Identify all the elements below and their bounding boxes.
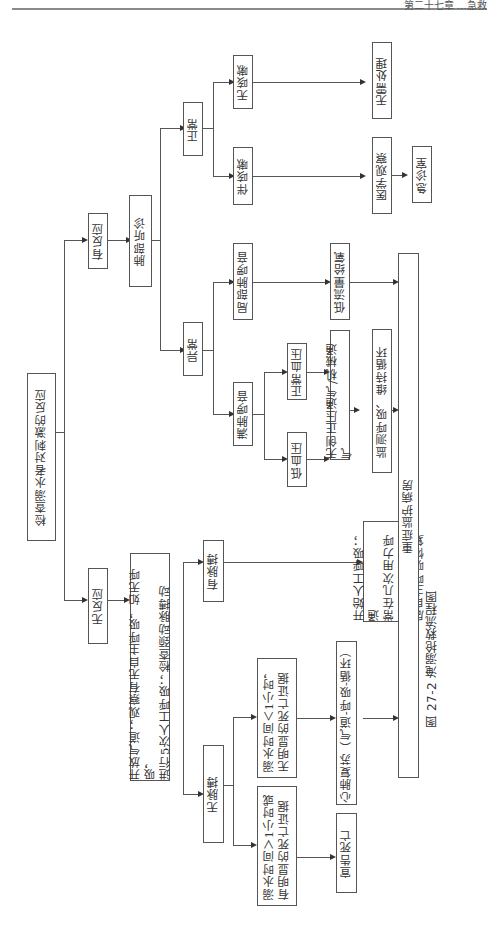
connector	[233, 845, 253, 846]
node-no-pulse: 无脉搏	[203, 745, 224, 843]
node-er: 急诊室	[412, 146, 432, 203]
connector	[56, 432, 64, 433]
node-no-treatment: 无需处理	[372, 42, 392, 119]
running-title: 第二十七章 …急救	[404, 0, 487, 12]
connector	[108, 240, 126, 241]
node-low-flow-o2: 低流量给氧	[330, 243, 350, 320]
node-abnormal: 异常	[183, 322, 203, 376]
node-declare-death: 宣告死亡	[336, 813, 357, 893]
node-no-cough: 无咳嗽	[233, 55, 253, 109]
connector	[64, 240, 65, 600]
connector	[348, 282, 393, 283]
connector	[223, 785, 233, 786]
connector	[223, 562, 357, 563]
connector	[363, 718, 393, 719]
node-medical-observation: 医学观察	[372, 137, 392, 214]
connector	[64, 600, 82, 601]
node-icu: 重症监护病房	[398, 253, 419, 778]
connector	[250, 82, 360, 83]
node-root: 检查溺水者对刺激的反应	[27, 373, 56, 541]
connector	[213, 176, 229, 177]
figure-caption: 图 27-2 淹溺抢救流程图	[425, 590, 440, 732]
connector	[296, 718, 330, 719]
node-normal-bp: 正常血压	[287, 343, 307, 400]
connector	[183, 562, 184, 794]
node-hypotension: 低血压	[287, 432, 307, 487]
connector	[213, 82, 229, 83]
node-niv: 无创正压通气/机械通气	[330, 330, 350, 460]
connector	[152, 240, 160, 241]
node-no-response: 无反应	[88, 568, 108, 644]
arrow-icon	[360, 173, 366, 179]
connector	[203, 128, 213, 129]
connector	[203, 350, 213, 351]
connector	[264, 372, 284, 373]
connector	[392, 175, 402, 176]
node-has-pulse: 有脉搏	[203, 540, 224, 602]
arrow-icon	[402, 172, 408, 178]
connector	[264, 459, 284, 460]
connector	[233, 717, 234, 845]
connector	[213, 282, 214, 414]
node-cpr: 心肺复苏（气道-呼吸-循环）	[336, 641, 357, 805]
connector	[64, 240, 82, 241]
connector	[253, 414, 264, 415]
connector	[160, 128, 161, 350]
connector	[108, 600, 124, 601]
node-open-airway: 开放气道；观察有无自主呼吸，如无呼吸， 进行5次人工呼吸；检查颈动脉搏动	[130, 553, 170, 781]
node-diffuse-rales: 满肺啰音	[233, 382, 253, 446]
connector	[306, 459, 324, 460]
node-normal: 正常	[183, 102, 203, 156]
arrow-icon	[360, 79, 366, 85]
connector	[264, 372, 265, 459]
connector	[250, 176, 360, 177]
connector	[213, 82, 214, 177]
connector	[160, 350, 182, 351]
node-has-response: 有反应	[88, 213, 108, 269]
node-lung-auscultation: 肺部听诊	[129, 195, 152, 287]
node-submerged-lt-1h: 溺水时间＜1小时， 无明显的死亡证据	[257, 658, 297, 778]
connector	[233, 717, 253, 718]
connector	[296, 857, 330, 858]
node-local-rales: 局部肺啰音	[233, 243, 253, 320]
node-with-cough: 伴咳嗽	[233, 147, 253, 205]
connector	[306, 372, 324, 373]
connector	[160, 128, 182, 129]
node-submerged-gt-1h: 溺水时间＞1小时或 有明显的死亡证据	[257, 786, 297, 906]
node-monitor: 监测呼吸、维持循环	[372, 329, 392, 473]
connector	[253, 282, 325, 283]
